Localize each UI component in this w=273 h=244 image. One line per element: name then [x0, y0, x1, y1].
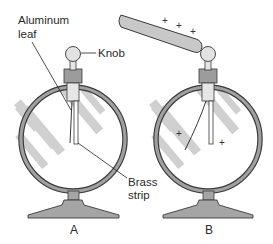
- label-knob: Knob: [98, 47, 125, 59]
- neck-a: [67, 83, 79, 101]
- rod-charge-plus-3: +: [190, 26, 196, 37]
- brass-strip-a: [74, 101, 78, 144]
- rod-charge-plus-2: +: [176, 20, 182, 31]
- electroscope-a: [14, 47, 125, 219]
- base-b: [163, 200, 253, 218]
- caption-a: A: [70, 223, 78, 237]
- aluminum-leaf-b: [185, 101, 206, 150]
- knob-a: [66, 47, 81, 62]
- charged-rod: + + +: [119, 15, 202, 52]
- charge-plus-left: +: [176, 128, 182, 139]
- glass-reflection-stripes-b: [149, 86, 241, 169]
- electroscope-b: + +: [149, 47, 260, 219]
- caption-b: B: [205, 223, 213, 237]
- post-b: [203, 191, 214, 200]
- post-a: [68, 191, 79, 200]
- glass-reflection-stripes-a: [14, 86, 105, 169]
- brass-strip-b: [209, 101, 213, 144]
- neck-b: [202, 83, 214, 101]
- knob-b: [201, 47, 216, 62]
- label-brass-strip-line2: strip: [128, 189, 150, 201]
- rod-charge-plus-1: +: [162, 15, 168, 26]
- electroscope-diagram: + + + + + Aluminum leaf Knob Brass strip…: [0, 0, 273, 244]
- insulator-collar-b: [199, 69, 217, 83]
- label-aluminum-leaf-line1: Aluminum: [18, 14, 69, 26]
- label-brass-strip-line1: Brass: [128, 176, 158, 188]
- label-aluminum-leaf-line2: leaf: [18, 28, 37, 40]
- charge-plus-right: +: [219, 137, 225, 148]
- aluminum-leaf-a: [70, 101, 72, 143]
- insulator-collar-a: [64, 69, 82, 83]
- base-a: [28, 200, 119, 218]
